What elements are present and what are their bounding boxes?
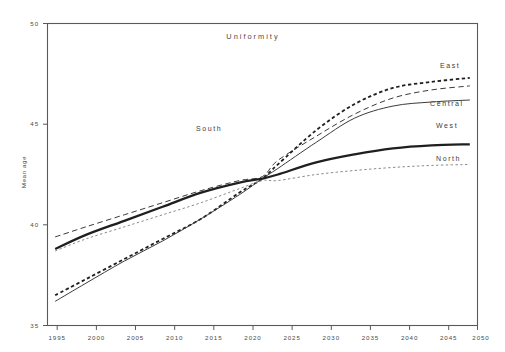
chart-canvas: 50 45 40 35 1995 2000 2005 2010 2015 202… xyxy=(0,0,505,352)
series-label-east: East xyxy=(440,62,460,69)
chart-title: Uniformity xyxy=(226,32,279,41)
plot-frame xyxy=(48,24,478,326)
y-tick-label-35: 35 xyxy=(30,322,39,329)
x-tick-label-2030: 2030 xyxy=(323,334,340,341)
x-tick-label-2015: 2015 xyxy=(205,334,222,341)
series-label-north: North xyxy=(436,155,461,162)
y-axis-ticks xyxy=(43,24,48,326)
x-tick-label-2020: 2020 xyxy=(244,334,261,341)
y-tick-label-50: 50 xyxy=(30,20,39,27)
x-tick-label-2025: 2025 xyxy=(283,334,300,341)
y-tick-label-40: 40 xyxy=(30,221,39,228)
x-tick-label-2010: 2010 xyxy=(166,334,183,341)
uniformity-line-chart: 50 45 40 35 1995 2000 2005 2010 2015 202… xyxy=(0,0,505,352)
series-line-west xyxy=(55,144,470,249)
series-layer xyxy=(55,78,470,301)
x-tick-label-2005: 2005 xyxy=(127,334,144,341)
y-tick-label-45: 45 xyxy=(30,120,39,127)
series-label-south: South xyxy=(196,125,222,132)
y-axis-title: Mean age xyxy=(20,156,27,188)
x-tick-label-1995: 1995 xyxy=(49,334,66,341)
x-axis-ticks xyxy=(57,326,477,331)
series-label-central: Central xyxy=(430,100,464,107)
series-line-south xyxy=(55,86,470,237)
series-line-east xyxy=(55,78,470,295)
series-label-west: West xyxy=(436,122,458,129)
x-tick-label-2040: 2040 xyxy=(401,334,418,341)
x-tick-label-2045: 2045 xyxy=(440,334,457,341)
x-tick-label-2000: 2000 xyxy=(88,334,105,341)
x-tick-label-2035: 2035 xyxy=(362,334,379,341)
series-line-central xyxy=(55,100,470,301)
x-tick-label-2050: 2050 xyxy=(472,334,489,341)
